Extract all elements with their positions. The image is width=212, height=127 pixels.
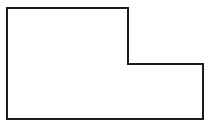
- polygon-figure-svg: [0, 0, 212, 127]
- l-shaped-polygon: [7, 8, 203, 119]
- figure-canvas: [0, 0, 212, 127]
